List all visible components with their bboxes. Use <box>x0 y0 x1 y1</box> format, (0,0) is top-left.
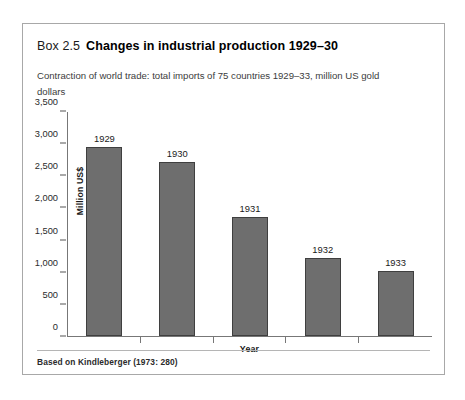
y-axis-tick-label: 1,000 <box>35 258 58 268</box>
box-number: Box 2.5 <box>37 39 80 53</box>
bar-rect <box>86 147 122 336</box>
x-axis-label: Year <box>67 344 432 354</box>
bar-item: 1930 <box>141 112 214 336</box>
y-axis-tick-mark <box>60 111 66 112</box>
source-note: Based on Kindleberger (1973: 280) <box>37 357 178 367</box>
bar-label: 1929 <box>94 133 115 144</box>
y-axis-tick-mark <box>60 336 66 337</box>
y-axis-tick-mark <box>60 175 66 176</box>
bar-chart: Million US$ 05001,0001,5002,0002,5003,00… <box>37 112 432 337</box>
box-header: Box 2.5Changes in industrial production … <box>37 36 338 54</box>
page-title: Changes in industrial production 1929–30 <box>86 39 338 53</box>
bar-rect <box>159 162 195 336</box>
bar-series: 19291930193119321933 <box>68 112 432 336</box>
y-axis-tick-label: 3,500 <box>35 97 58 107</box>
y-axis-tick-mark <box>60 207 66 208</box>
y-axis-tick-mark <box>60 143 66 144</box>
plot-area: 05001,0001,5002,0002,5003,0003,500 19291… <box>67 112 432 337</box>
x-axis-tick-mark <box>285 336 286 343</box>
bar-item: 1932 <box>286 112 359 336</box>
bar-label: 1933 <box>385 257 406 268</box>
bar-item: 1929 <box>68 112 141 336</box>
chart-subtitle: Contraction of world trade: total import… <box>37 68 397 100</box>
y-axis-tick-label: 0 <box>53 322 58 332</box>
y-axis-tick-label: 2,500 <box>35 161 58 171</box>
bar-rect <box>378 271 414 336</box>
y-axis-tick-label: 500 <box>42 290 58 300</box>
x-axis-tick-mark <box>358 336 359 343</box>
x-axis-tick-mark <box>140 336 141 343</box>
x-axis-tick-mark <box>213 336 214 343</box>
bar-item: 1933 <box>359 112 432 336</box>
y-axis-tick-label: 3,000 <box>35 129 58 139</box>
y-axis-tick-mark <box>60 271 66 272</box>
y-axis-tick-mark <box>60 239 66 240</box>
figure-box: Box 2.5Changes in industrial production … <box>22 23 445 375</box>
bar-label: 1930 <box>167 148 188 159</box>
bar-label: 1932 <box>312 244 333 255</box>
bar-item: 1931 <box>214 112 287 336</box>
bar-rect <box>232 217 268 336</box>
bar-label: 1931 <box>240 203 261 214</box>
y-axis-tick-label: 1,500 <box>35 226 58 236</box>
y-axis-tick-label: 2,000 <box>35 193 58 203</box>
footer-divider <box>37 350 430 351</box>
bar-rect <box>305 258 341 336</box>
y-axis-tick-mark <box>60 303 66 304</box>
x-axis-line <box>67 336 432 337</box>
